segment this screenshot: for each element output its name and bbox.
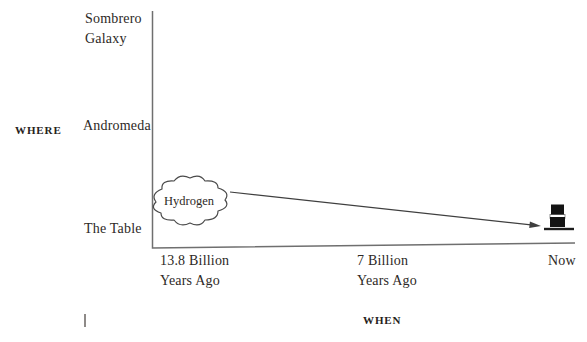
figure-canvas: WHERE Sombrero Galaxy Andromeda The Tabl…: [0, 0, 587, 342]
x-tick-7-billion-years-ago: 7 Billion Years Ago: [357, 251, 417, 291]
x-tick-now: Now: [548, 251, 576, 271]
y-axis-title: WHERE: [15, 124, 62, 136]
page-scan-mark: [84, 314, 86, 327]
arrow-head-icon: [529, 222, 541, 229]
y-tick-andromeda: Andromeda: [83, 116, 151, 136]
figure-drawing-layer: [0, 0, 587, 342]
x-axis-title: WHEN: [363, 314, 401, 326]
x-tick-13-8-billion-years-ago: 13.8 Billion Years Ago: [160, 251, 229, 291]
table-icon: [544, 205, 574, 230]
y-tick-sombrero-galaxy: Sombrero Galaxy: [85, 9, 142, 49]
hydrogen-cloud-label: Hydrogen: [153, 194, 225, 208]
y-tick-the-table: The Table: [84, 219, 142, 239]
table-icon-top-block: [551, 205, 564, 215]
table-icon-bottom-block: [550, 217, 565, 227]
arrow-line: [230, 192, 531, 225]
arrow: [230, 192, 541, 228]
